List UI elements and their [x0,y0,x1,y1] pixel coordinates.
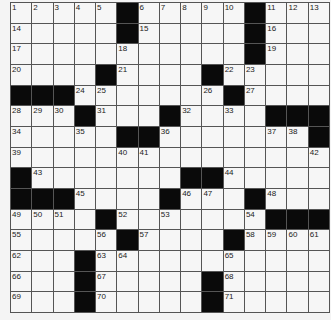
crossword-cell[interactable] [75,230,95,250]
crossword-cell[interactable]: 44 [224,168,244,188]
crossword-cell[interactable] [54,44,74,64]
crossword-cell[interactable] [287,24,307,44]
crossword-cell[interactable] [224,189,244,209]
crossword-cell[interactable] [245,292,265,312]
crossword-cell[interactable]: 31 [96,106,116,126]
crossword-cell[interactable] [54,230,74,250]
crossword-cell[interactable] [32,44,52,64]
crossword-cell[interactable] [117,86,137,106]
crossword-cell[interactable] [266,65,286,85]
crossword-cell[interactable] [139,210,159,230]
crossword-cell[interactable]: 49 [11,210,31,230]
crossword-cell[interactable]: 21 [117,65,137,85]
crossword-cell[interactable] [309,65,329,85]
crossword-cell[interactable] [160,251,180,271]
crossword-cell[interactable]: 36 [160,127,180,147]
crossword-cell[interactable] [309,44,329,64]
crossword-cell[interactable] [309,272,329,292]
crossword-cell[interactable]: 17 [11,44,31,64]
crossword-cell[interactable]: 46 [181,189,201,209]
crossword-cell[interactable] [266,148,286,168]
crossword-cell[interactable]: 16 [266,24,286,44]
crossword-cell[interactable] [202,251,222,271]
crossword-cell[interactable]: 35 [75,127,95,147]
crossword-cell[interactable] [309,292,329,312]
crossword-cell[interactable] [181,251,201,271]
crossword-cell[interactable] [160,86,180,106]
crossword-cell[interactable] [54,24,74,44]
crossword-cell[interactable]: 53 [160,210,180,230]
crossword-cell[interactable]: 45 [75,189,95,209]
crossword-cell[interactable]: 26 [202,86,222,106]
crossword-cell[interactable] [202,106,222,126]
crossword-cell[interactable] [287,189,307,209]
crossword-cell[interactable] [139,65,159,85]
crossword-cell[interactable] [160,272,180,292]
crossword-cell[interactable] [309,24,329,44]
crossword-cell[interactable] [75,65,95,85]
crossword-cell[interactable] [160,148,180,168]
crossword-cell[interactable] [117,272,137,292]
crossword-cell[interactable] [181,86,201,106]
crossword-cell[interactable] [75,44,95,64]
crossword-cell[interactable]: 10 [224,3,244,23]
crossword-cell[interactable] [32,251,52,271]
crossword-cell[interactable] [309,86,329,106]
crossword-cell[interactable]: 67 [96,272,116,292]
crossword-cell[interactable] [287,168,307,188]
crossword-cell[interactable]: 60 [287,230,307,250]
crossword-cell[interactable]: 15 [139,24,159,44]
crossword-cell[interactable]: 68 [224,272,244,292]
crossword-cell[interactable]: 29 [32,106,52,126]
crossword-cell[interactable] [287,86,307,106]
crossword-cell[interactable] [245,251,265,271]
crossword-cell[interactable]: 41 [139,148,159,168]
crossword-cell[interactable]: 52 [117,210,137,230]
crossword-cell[interactable]: 61 [309,230,329,250]
crossword-cell[interactable] [309,251,329,271]
crossword-cell[interactable] [32,230,52,250]
crossword-cell[interactable]: 42 [309,148,329,168]
crossword-cell[interactable] [54,251,74,271]
crossword-cell[interactable]: 62 [11,251,31,271]
crossword-cell[interactable]: 7 [160,3,180,23]
crossword-cell[interactable]: 11 [266,3,286,23]
crossword-cell[interactable]: 12 [287,3,307,23]
crossword-cell[interactable] [139,272,159,292]
crossword-cell[interactable] [54,168,74,188]
crossword-cell[interactable] [139,86,159,106]
crossword-cell[interactable]: 38 [287,127,307,147]
crossword-cell[interactable] [75,210,95,230]
crossword-cell[interactable] [202,230,222,250]
crossword-cell[interactable]: 37 [266,127,286,147]
crossword-cell[interactable]: 27 [245,86,265,106]
crossword-cell[interactable] [287,148,307,168]
crossword-cell[interactable] [181,292,201,312]
crossword-cell[interactable] [224,148,244,168]
crossword-cell[interactable]: 25 [96,86,116,106]
crossword-cell[interactable]: 13 [309,3,329,23]
crossword-cell[interactable] [245,272,265,292]
crossword-cell[interactable] [224,127,244,147]
crossword-cell[interactable] [96,44,116,64]
crossword-cell[interactable] [181,272,201,292]
crossword-cell[interactable]: 5 [96,3,116,23]
crossword-cell[interactable] [160,230,180,250]
crossword-cell[interactable] [266,292,286,312]
crossword-cell[interactable] [224,44,244,64]
crossword-cell[interactable] [287,251,307,271]
crossword-cell[interactable]: 20 [11,65,31,85]
crossword-cell[interactable] [181,230,201,250]
crossword-cell[interactable] [32,272,52,292]
crossword-cell[interactable] [287,44,307,64]
crossword-cell[interactable]: 50 [32,210,52,230]
crossword-cell[interactable] [117,168,137,188]
crossword-cell[interactable]: 64 [117,251,137,271]
crossword-cell[interactable] [245,148,265,168]
crossword-cell[interactable] [287,272,307,292]
crossword-cell[interactable]: 39 [11,148,31,168]
crossword-cell[interactable] [160,168,180,188]
crossword-cell[interactable]: 69 [11,292,31,312]
crossword-cell[interactable] [181,44,201,64]
crossword-cell[interactable] [75,24,95,44]
